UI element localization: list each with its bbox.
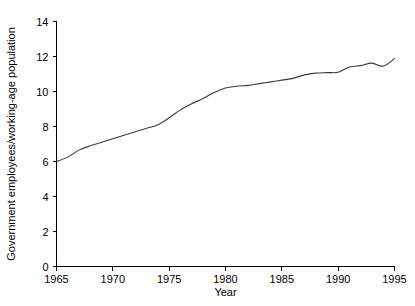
x-tick-label: 1975 xyxy=(157,273,181,285)
y-axis: 02468101214 xyxy=(36,16,56,273)
y-tick-label: 10 xyxy=(36,86,48,98)
y-tick-label: 6 xyxy=(42,156,48,168)
x-axis-title: Year xyxy=(214,286,237,298)
y-tick-label: 14 xyxy=(36,16,48,28)
y-tick-label: 2 xyxy=(42,226,48,238)
line-chart: 02468101214 1965197019751980198519901995… xyxy=(0,0,415,306)
x-tick-label: 1980 xyxy=(213,273,237,285)
x-axis: 1965197019751980198519901995 xyxy=(44,267,406,285)
x-tick-label: 1965 xyxy=(44,273,68,285)
x-axis-ticks xyxy=(57,267,395,271)
y-axis-ticks xyxy=(53,22,57,267)
x-tick-label: 1995 xyxy=(382,273,406,285)
y-tick-label: 8 xyxy=(42,121,48,133)
y-tick-label: 12 xyxy=(36,51,48,63)
y-axis-title: Government employees/working-age populat… xyxy=(5,27,17,261)
y-axis-tick-labels: 02468101214 xyxy=(36,16,48,273)
y-tick-label: 4 xyxy=(42,191,48,203)
x-tick-label: 1985 xyxy=(270,273,294,285)
y-tick-label: 0 xyxy=(42,261,48,273)
x-tick-label: 1970 xyxy=(101,273,125,285)
chart-canvas: 02468101214 1965197019751980198519901995… xyxy=(0,0,415,306)
data-series-line xyxy=(57,59,395,162)
x-tick-label: 1990 xyxy=(326,273,350,285)
x-axis-tick-labels: 1965197019751980198519901995 xyxy=(44,273,406,285)
